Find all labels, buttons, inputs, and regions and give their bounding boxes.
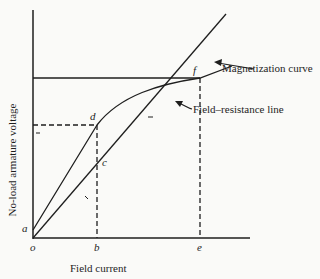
tick-mark	[85, 196, 88, 199]
point-label-o: o	[30, 241, 36, 253]
field-resistance-line	[33, 14, 226, 238]
diagram-canvas: f d c a o b e Magnetization curve Field–…	[0, 0, 320, 279]
magnetization-curve-label: Magnetization curve	[222, 62, 313, 74]
point-label-d: d	[90, 110, 96, 122]
magnetization-arrowhead-icon	[214, 59, 222, 66]
point-label-a: a	[22, 222, 28, 234]
point-label-c: c	[102, 156, 107, 168]
point-label-f: f	[193, 64, 198, 76]
field-resistance-line-label: Field–resistance line	[193, 103, 284, 115]
y-axis-label: No-load armature voltage	[6, 103, 18, 216]
y-axis-label-container: No-load armature voltage	[4, 80, 20, 240]
point-label-e: e	[197, 241, 202, 253]
point-label-b: b	[94, 241, 100, 253]
diagram-svg: f d c a o b e Magnetization curve Field–…	[0, 0, 320, 279]
magnetization-curve	[33, 66, 232, 230]
x-axis-label: Field current	[70, 262, 127, 274]
